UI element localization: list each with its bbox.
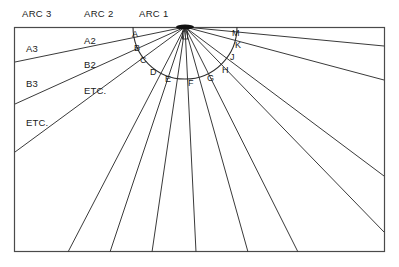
- ray-k: [185, 27, 384, 232]
- diagram-frame: [15, 28, 385, 252]
- arc1-point-c: C: [140, 56, 147, 65]
- zone-label-b3: B3: [26, 79, 38, 89]
- ray-f: [152, 27, 185, 252]
- ray-group: [15, 27, 384, 252]
- arc1-point-d: D: [150, 68, 157, 77]
- arc1-point-h: H: [222, 66, 229, 75]
- ray-j: [185, 27, 298, 252]
- zone-label-a3: A3: [26, 44, 38, 54]
- hub-point: [176, 25, 194, 30]
- arc1-point-g: G: [207, 74, 214, 83]
- zone-label-etc-arc3: ETC.: [26, 118, 48, 128]
- arc1-point-a: A: [132, 30, 138, 39]
- arc1-point-j: J: [230, 53, 235, 62]
- technical-diagram: ARC 3 ARC 2 ARC 1 A3 B3 ETC. A2 B2 ETC. …: [0, 0, 399, 267]
- ray-n: [185, 27, 384, 80]
- diagram-canvas: [0, 0, 399, 267]
- arc1-point-e: E: [165, 75, 171, 84]
- zone-label-etc-arc2: ETC.: [84, 86, 106, 96]
- ray-p: [185, 27, 384, 46]
- ray-m: [185, 27, 384, 176]
- ray-a: [15, 27, 185, 62]
- arc1-point-f: F: [188, 79, 194, 88]
- arc-3-header: ARC 3: [22, 9, 51, 19]
- zone-label-b2: B2: [84, 60, 96, 70]
- arc-1-header: ARC 1: [139, 9, 168, 19]
- zone-label-a2: A2: [84, 36, 96, 46]
- arc1-point-k: K: [235, 41, 241, 50]
- arc-2-header: ARC 2: [84, 9, 113, 19]
- arc1-point-m: M: [232, 29, 240, 38]
- arc1-point-b: B: [134, 44, 140, 53]
- ray-e: [110, 27, 185, 252]
